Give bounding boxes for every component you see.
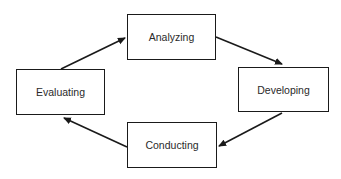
node-label: Analyzing	[149, 31, 195, 43]
node-label: Developing	[257, 84, 310, 96]
cycle-diagram: Analyzing Developing Conducting Evaluati…	[0, 0, 341, 179]
arrow-developing-to-conducting	[219, 113, 282, 146]
node-label: Conducting	[145, 139, 198, 151]
node-conducting: Conducting	[127, 122, 217, 168]
arrow-evaluating-to-analyzing	[61, 38, 125, 69]
node-analyzing: Analyzing	[127, 14, 216, 60]
node-developing: Developing	[238, 67, 329, 112]
arrow-conducting-to-evaluating	[64, 118, 127, 147]
node-label: Evaluating	[36, 86, 85, 98]
node-evaluating: Evaluating	[16, 69, 105, 115]
arrow-analyzing-to-developing	[216, 37, 282, 64]
